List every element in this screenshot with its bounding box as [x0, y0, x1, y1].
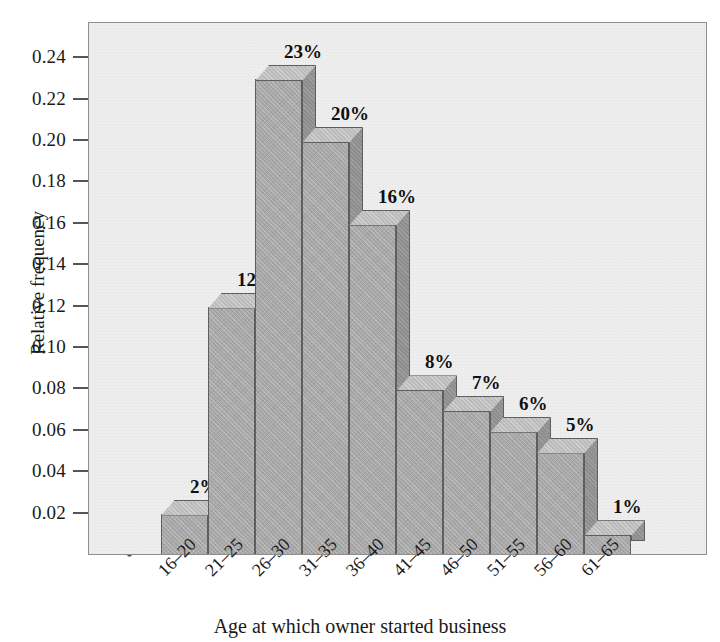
y-axis-tick-label: 0.04: [32, 460, 66, 482]
y-axis-tick-mark: [73, 305, 88, 307]
plot-area: 2%12%23%20%16%8%7%6%5%1%: [88, 22, 707, 555]
y-axis-tick-mark: [73, 512, 88, 514]
bar-value-label: 8%: [425, 351, 454, 373]
bar-value-label: 16%: [378, 186, 416, 208]
y-axis-tick-mark: [73, 222, 88, 224]
y-axis-tick-label: 0.06: [32, 419, 66, 441]
y-axis-tick-label: 0.22: [32, 88, 66, 110]
y-axis-tick-mark: [73, 98, 88, 100]
y-axis-tick-label: 0.20: [32, 129, 66, 151]
y-axis-tick-mark: [73, 470, 88, 472]
y-axis-tick-mark: [73, 139, 88, 141]
y-axis-title: Relative frequency: [27, 183, 49, 383]
bar-front-face: [208, 307, 255, 555]
y-axis-tick-mark: [73, 346, 88, 348]
bar-front-face: [255, 79, 302, 555]
bar-front-face: [396, 389, 443, 555]
bar-front-face: [349, 224, 396, 555]
y-axis-tick-mark: [73, 56, 88, 58]
bar-value-label: 6%: [519, 393, 548, 415]
bar-front-face: [302, 141, 349, 555]
y-axis-tick-label: 0.02: [32, 502, 66, 524]
y-axis-tick-mark: [73, 387, 88, 389]
bar-value-label: 20%: [331, 103, 369, 125]
bar-value-label: 1%: [613, 496, 642, 518]
bar-front-face: [443, 410, 490, 555]
bar-value-label: 7%: [472, 372, 501, 394]
x-axis-title: Age at which owner started business: [0, 615, 720, 638]
y-axis-tick-mark: [73, 263, 88, 265]
y-axis-tick-mark: [73, 429, 88, 431]
y-axis-tick-mark: [73, 180, 88, 182]
y-axis-tick-label: 0.24: [32, 46, 66, 68]
chart-figure: 0.020.040.060.080.100.120.140.160.180.20…: [0, 0, 720, 642]
bar-value-label: 23%: [284, 41, 322, 63]
bar-value-label: 5%: [566, 414, 595, 436]
